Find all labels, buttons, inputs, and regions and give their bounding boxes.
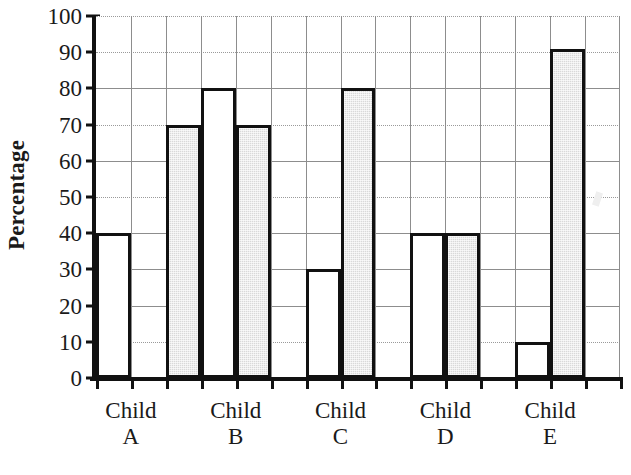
gridline-horizontal [96, 16, 620, 17]
y-axis-tick-label: 50 [59, 186, 82, 209]
y-axis-tick-label: 70 [59, 113, 82, 136]
x-axis-tick-label: ChildA [105, 398, 156, 450]
x-axis-tick-mark [201, 377, 204, 389]
x-axis-tick-labels: ChildAChildBChildCChildDChildE [96, 390, 620, 470]
bar-child-a-gray [166, 125, 201, 378]
x-axis-tick-label-line2: A [105, 424, 156, 450]
y-axis-title-label: Percentage [4, 140, 30, 250]
x-axis-tick-mark [375, 377, 378, 389]
x-axis-tick-label: ChildD [420, 398, 471, 450]
y-axis-tick-label: 20 [59, 294, 82, 317]
x-axis-tick-mark [271, 377, 274, 389]
y-axis-tick-label: 60 [59, 149, 82, 172]
x-axis-tick-label-line1: Child [105, 398, 156, 423]
x-axis-tick-label-line1: Child [315, 398, 366, 423]
x-axis-tick-mark [236, 377, 239, 389]
gridline-vertical [131, 16, 132, 378]
x-axis-tick-label: ChildB [210, 398, 261, 450]
x-axis-tick-label: ChildE [525, 398, 576, 450]
x-axis-tick-mark [306, 377, 309, 389]
x-axis-tick-mark [445, 377, 448, 389]
gridline-vertical [515, 16, 516, 378]
bar-child-e-white [515, 342, 550, 378]
x-axis-tick-mark [410, 377, 413, 389]
x-axis-tick-label-line2: E [525, 424, 576, 450]
y-axis-tick-label: 0 [71, 367, 83, 390]
y-axis-tick-label: 10 [59, 330, 82, 353]
y-axis-tick-label: 80 [59, 77, 82, 100]
x-axis-tick-label-line2: B [210, 424, 261, 450]
gridline-vertical [585, 16, 586, 378]
x-axis-tick-label: ChildC [315, 398, 366, 450]
x-axis-tick-mark [96, 377, 99, 389]
x-axis-tick-mark [585, 377, 588, 389]
bar-child-e-gray [550, 49, 585, 378]
x-axis-tick-label-line2: D [420, 424, 471, 450]
bar-child-d-gray [445, 233, 480, 378]
x-axis-tick-label-line1: Child [210, 398, 261, 423]
y-axis-title: Percentage [0, 0, 34, 390]
bar-child-c-gray [341, 88, 376, 378]
y-axis-tick-label: 40 [59, 222, 82, 245]
x-axis-tick-mark [341, 377, 344, 389]
bar-child-b-white [201, 88, 236, 378]
x-axis-tick-label-line1: Child [420, 398, 471, 423]
y-axis-tick-label: 100 [48, 5, 83, 28]
x-axis-tick-mark [515, 377, 518, 389]
x-axis-tick-mark [550, 377, 553, 389]
x-axis-tick-mark [480, 377, 483, 389]
scan-artifact-mark [592, 191, 603, 206]
gridline-vertical [375, 16, 376, 378]
y-axis-tick-labels: 0102030405060708090100 [34, 0, 88, 390]
bar-child-c-white [306, 269, 341, 378]
x-axis-tick-label-line2: C [315, 424, 366, 450]
y-axis-tick-label: 30 [59, 258, 82, 281]
x-axis-tick-label-line1: Child [525, 398, 576, 423]
gridline-horizontal [96, 52, 620, 53]
bar-child-b-gray [236, 125, 271, 378]
gridline-vertical [271, 16, 272, 378]
x-axis-line [90, 377, 622, 381]
plot-area [96, 16, 620, 378]
x-axis-tick-mark [131, 377, 134, 389]
bar-child-a-white [96, 233, 131, 378]
bar-chart: Percentage 0102030405060708090100 ChildA… [0, 0, 631, 475]
gridline-vertical [480, 16, 481, 378]
gridline-vertical [619, 16, 620, 378]
x-axis-tick-mark [620, 377, 623, 389]
y-axis-tick-label: 90 [59, 41, 82, 64]
x-axis-tick-mark [166, 377, 169, 389]
bar-child-d-white [410, 233, 445, 378]
